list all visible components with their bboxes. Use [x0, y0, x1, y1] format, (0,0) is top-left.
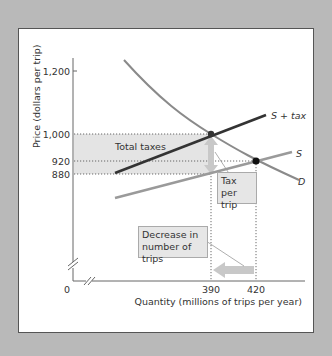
x-tick-420: 420	[247, 284, 265, 295]
tax-per-trip-box: Tax per trip	[217, 172, 257, 204]
y-tick-1000: 1,000	[43, 129, 70, 140]
supply-plus-tax-label: S + tax	[271, 110, 307, 121]
demand-label: D	[298, 176, 305, 187]
tax-per-trip-line1: Tax per	[221, 175, 253, 199]
x-tick-390: 390	[202, 284, 220, 295]
decrease-line2: number of trips	[142, 241, 204, 265]
total-taxes-label: Total taxes	[114, 141, 166, 152]
chart-svg: Price (dollars per trip) 1,200 1,000 920…	[0, 0, 332, 356]
y-tick-920: 920	[52, 156, 70, 167]
equilibrium-with-tax-point	[208, 131, 214, 137]
x-tick-0: 0	[64, 284, 70, 295]
decrease-line1: Decrease in	[142, 229, 204, 241]
y-tick-880: 880	[52, 169, 70, 180]
y-tick-1200: 1,200	[43, 66, 70, 77]
total-taxes-area	[74, 134, 211, 174]
decrease-arrow	[213, 262, 254, 278]
equilibrium-no-tax-point	[252, 157, 259, 164]
x-axis-label: Quantity (millions of trips per year)	[134, 296, 302, 307]
tax-per-trip-line2: trip	[221, 199, 253, 211]
y-axis-label: Price (dollars per trip)	[31, 44, 42, 148]
decrease-in-trips-box: Decrease in number of trips	[138, 226, 208, 258]
supply-label: S	[296, 148, 302, 159]
